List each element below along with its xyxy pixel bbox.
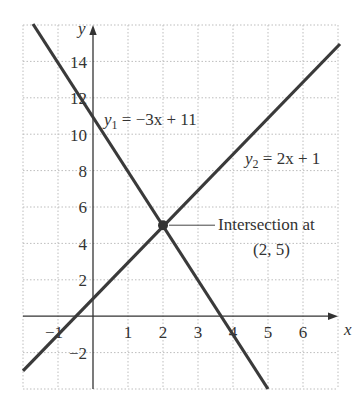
y-tick: 14 xyxy=(70,53,88,72)
y-tick: −2 xyxy=(69,344,87,363)
annotation-text-line2: (2, 5) xyxy=(253,240,290,259)
y-tick: 2 xyxy=(79,271,88,290)
x-tick: 6 xyxy=(299,323,308,342)
line-y2-label: y2 = 2x + 1 xyxy=(243,149,320,171)
y-tick: 10 xyxy=(70,126,87,145)
x-tick-labels: −1 1 2 3 4 5 6 xyxy=(45,323,307,342)
y-tick: 6 xyxy=(79,198,88,217)
y-axis-arrow-icon xyxy=(89,25,96,35)
line-y1-label: y1 = −3x + 11 xyxy=(102,110,197,132)
chart: y x 14 12 10 8 6 4 2 −2 −1 1 2 3 4 5 6 y… xyxy=(0,0,364,403)
y-axis-label: y xyxy=(76,19,86,38)
intersection-point xyxy=(158,220,168,230)
x-tick: 5 xyxy=(264,323,273,342)
x-axis-arrow-icon xyxy=(328,313,338,320)
x-tick: 1 xyxy=(124,323,133,342)
x-tick: 2 xyxy=(159,323,168,342)
x-axis-label: x xyxy=(343,320,352,339)
annotation-text-line1: Intersection at xyxy=(218,215,315,234)
y-tick: 4 xyxy=(79,235,88,254)
x-tick: 3 xyxy=(194,323,203,342)
y-tick: 8 xyxy=(79,162,88,181)
